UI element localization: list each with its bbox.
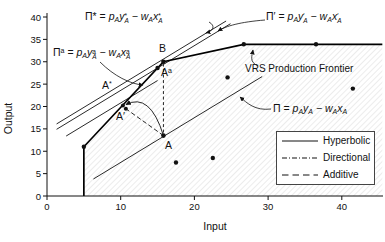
y-tick-label: 25 — [30, 79, 41, 90]
legend-box: Hyperbolic Directional Additive — [276, 131, 375, 185]
key-point-A — [161, 133, 166, 138]
legend-sample-solid-line — [281, 138, 319, 144]
legend-row-hyperbolic: Hyperbolic — [277, 132, 374, 149]
isoprofit-equation-pi-additive: Πa = pAyaA − wAxaA — [53, 46, 130, 60]
legend-sample-dash-line — [281, 172, 319, 178]
y-tick-label: 0 — [36, 191, 41, 202]
y-tick-label: 20 — [30, 101, 41, 112]
observation-point — [351, 86, 355, 90]
isoprofit-equation-pi-star: Π* = pAy*A − wAx*A — [85, 10, 163, 24]
y-tick-label: 30 — [30, 56, 41, 67]
y-tick-label: 35 — [30, 34, 41, 45]
y-axis-title: Output — [2, 91, 15, 147]
key-point-A_star — [121, 104, 125, 108]
legend-label-additive: Additive — [323, 169, 359, 180]
observation-point — [242, 42, 246, 46]
x-tick-label: 0 — [44, 201, 49, 212]
y-tick-label: 15 — [30, 123, 41, 134]
pi-star-arrow — [206, 22, 213, 33]
key-point-B — [161, 59, 166, 64]
frontier-label: VRS Production Frontier — [245, 63, 353, 74]
x-tick-label: 10 — [115, 201, 126, 212]
profit-efficiency-chart: 0102030400510152025303540 Π* = pAy*A − w… — [0, 0, 385, 242]
observation-point — [314, 42, 318, 46]
y-tick-label: 5 — [36, 168, 41, 179]
legend-label-directional: Directional — [323, 152, 370, 163]
point-label-A-additive: Aa — [161, 66, 172, 78]
x-tick-label: 20 — [189, 201, 200, 212]
key-point-A_additive — [155, 66, 159, 70]
observation-point — [82, 145, 86, 149]
x-tick-label: 30 — [263, 201, 274, 212]
observation-point — [211, 156, 215, 160]
point-label-A-star: A* — [102, 79, 112, 91]
y-tick-label: 40 — [30, 12, 41, 23]
x-tick-label: 40 — [337, 201, 348, 212]
y-tick-label: 10 — [30, 146, 41, 157]
x-axis-title: Input — [47, 220, 383, 232]
plot-canvas: 0102030400510152025303540 — [0, 0, 385, 242]
legend-sample-dashdot-line — [281, 155, 319, 161]
observation-point — [225, 75, 229, 79]
legend-row-directional: Directional — [277, 149, 374, 166]
observation-point — [174, 160, 178, 164]
legend-row-additive: Additive — [277, 166, 374, 183]
isoprofit-equation-pi: Π = pAyA − wAxA — [273, 102, 347, 115]
isoprofit-equation-pi-prime: Π′ = pAy′A − wAx′A — [266, 10, 341, 24]
point-label-A-prime: A′ — [116, 110, 125, 122]
legend-label-hyperbolic: Hyperbolic — [323, 135, 370, 146]
point-label-B: B — [159, 42, 166, 54]
point-label-A: A — [165, 139, 172, 151]
